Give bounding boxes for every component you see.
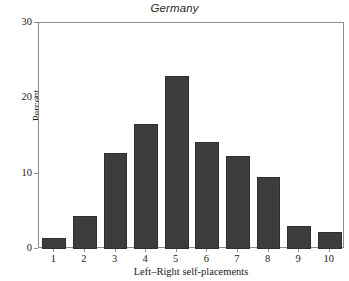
x-tick-label: 8 (265, 252, 270, 265)
y-tick: 30 (0, 22, 38, 23)
x-tick-label: 3 (112, 252, 117, 265)
x-tick-label: 5 (173, 252, 178, 265)
x-tick-label: 1 (51, 252, 56, 265)
histogram-figure: Germany Percent 0102030 12345678910 Left… (0, 0, 349, 281)
y-tick: 20 (0, 97, 38, 98)
x-axis-label: Left–Right self-placements (38, 266, 344, 277)
plot-area (38, 22, 344, 248)
bar (73, 216, 97, 249)
bar (104, 153, 128, 249)
y-tick-mark (34, 248, 38, 249)
y-tick-label: 0 (27, 241, 32, 254)
x-tick-label: 9 (295, 252, 300, 265)
bar (318, 232, 342, 249)
x-tick-label: 4 (142, 252, 147, 265)
bar (257, 177, 281, 249)
y-tick-label: 10 (22, 166, 33, 179)
bar (195, 142, 219, 249)
x-tick-label: 6 (204, 252, 209, 265)
bar (287, 226, 311, 249)
y-tick-label: 30 (22, 15, 33, 28)
x-tick-label: 10 (323, 252, 334, 265)
bar (165, 76, 189, 249)
x-tick-label: 7 (234, 252, 239, 265)
y-tick-label: 20 (22, 90, 33, 103)
bar (134, 124, 158, 249)
bar (42, 238, 66, 249)
bar (226, 156, 250, 249)
x-tick-label: 2 (81, 252, 86, 265)
chart-title: Germany (0, 2, 349, 14)
y-tick: 0 (0, 248, 38, 249)
y-tick: 10 (0, 173, 38, 174)
